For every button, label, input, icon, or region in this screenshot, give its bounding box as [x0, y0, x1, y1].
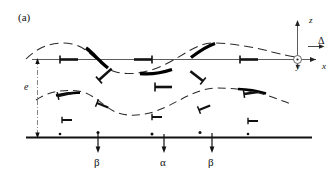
edge-symbol	[198, 102, 212, 114]
edge-symbol	[152, 114, 162, 120]
e-arrowhead-top	[35, 58, 39, 64]
edge-symbol	[155, 83, 172, 92]
interface-dot	[199, 131, 202, 134]
x-axis-arrowhead	[310, 57, 316, 62]
interface-dot	[247, 133, 250, 136]
edge-symbol	[188, 68, 206, 85]
interface-dots-group	[59, 131, 250, 136]
bottom-marker-label-beta-left: β	[94, 157, 100, 168]
interface-dot	[151, 133, 154, 136]
dislocation-schematic	[0, 0, 335, 176]
bottom-arrows-group	[96, 133, 215, 153]
z-axis-arrowhead	[295, 20, 300, 26]
z-axis-group	[295, 20, 300, 60]
axis-label-z: z	[309, 16, 313, 25]
spacing-label-e: e	[24, 82, 28, 92]
bold-segment-3	[191, 44, 215, 58]
edge-symbol	[134, 56, 152, 64]
dislocation-symbols-group	[57, 56, 258, 125]
edge-symbol	[248, 118, 258, 124]
bottom-marker-label-alpha: α	[160, 157, 166, 168]
edge-symbol	[240, 56, 258, 64]
edge-symbol	[60, 56, 78, 64]
interface-dot	[59, 133, 62, 136]
bold-segment-1	[86, 48, 108, 68]
edge-symbol	[62, 117, 72, 123]
axis-label-delta: Δ	[318, 36, 324, 46]
edge-symbol	[96, 99, 110, 111]
bottom-arrow-beta-right	[210, 133, 215, 153]
axis-label-x: x	[322, 62, 326, 71]
bottom-marker-label-beta-right: β	[208, 157, 214, 168]
panel-label: (a)	[18, 12, 30, 23]
axis-label-y: y	[296, 62, 300, 71]
bottom-arrow-beta-left	[96, 133, 101, 153]
